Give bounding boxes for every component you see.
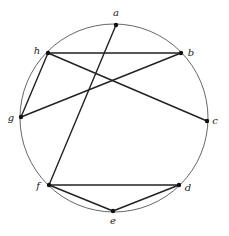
labels-group: abcdefgh [8, 7, 218, 226]
vertex-b [179, 51, 183, 55]
edge-a-f [49, 25, 116, 185]
edge-f-e [49, 185, 113, 211]
vertex-label-f: f [35, 180, 42, 191]
edge-e-d [113, 185, 179, 211]
vertex-label-e: e [110, 215, 116, 226]
vertex-e [111, 209, 115, 213]
vertex-f [47, 183, 51, 187]
vertex-label-g: g [8, 112, 14, 123]
vertex-c [205, 119, 209, 123]
vertex-label-h: h [34, 45, 40, 56]
circle-graph-diagram: abcdefgh [0, 0, 229, 236]
vertex-label-c: c [212, 115, 218, 126]
vertex-label-d: d [185, 182, 191, 193]
vertex-label-b: b [188, 47, 194, 58]
vertex-h [46, 51, 50, 55]
vertex-label-a: a [113, 7, 119, 18]
vertex-g [19, 115, 23, 119]
vertex-d [177, 183, 181, 187]
edge-h-c [48, 53, 207, 121]
vertex-a [114, 23, 118, 27]
